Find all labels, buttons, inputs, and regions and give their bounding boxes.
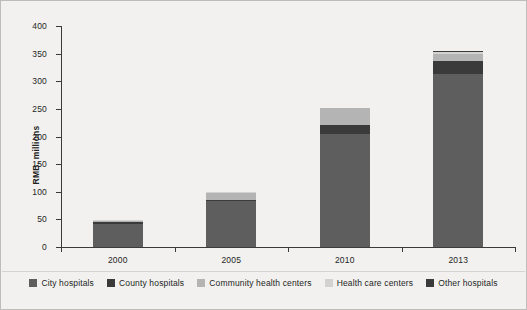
y-tick-mark: [56, 26, 61, 27]
legend-item[interactable]: Health care centers: [325, 278, 414, 288]
legend-label: Health care centers: [337, 278, 414, 288]
plot-area: 050100150200250300350400: [61, 26, 515, 247]
x-tick-mark: [515, 247, 516, 252]
x-tick-mark: [61, 247, 62, 252]
y-tick-mark: [56, 219, 61, 220]
y-tick-label: 150: [32, 159, 47, 169]
legend-item[interactable]: Community health centers: [197, 278, 311, 288]
legend-item[interactable]: Other hospitals: [426, 278, 497, 288]
y-tick-mark: [56, 54, 61, 55]
y-tick-label: 0: [42, 242, 47, 252]
legend-swatch-icon: [107, 279, 115, 287]
y-tick-label: 350: [32, 49, 47, 59]
x-tick-label: 2000: [108, 255, 128, 265]
legend-item[interactable]: City hospitals: [29, 278, 94, 288]
bar-segment[interactable]: [433, 74, 483, 247]
y-tick-mark: [56, 164, 61, 165]
legend-item[interactable]: County hospitals: [107, 278, 184, 288]
x-tick-label: 2013: [448, 255, 468, 265]
y-tick-label: 250: [32, 104, 47, 114]
y-tick-label: 50: [37, 214, 47, 224]
y-tick-mark: [56, 81, 61, 82]
x-tick-mark: [288, 247, 289, 252]
x-tick-mark: [402, 247, 403, 252]
legend-swatch-icon: [325, 279, 333, 287]
bar-segment[interactable]: [206, 201, 256, 247]
y-tick-mark: [56, 137, 61, 138]
bar-segment[interactable]: [320, 108, 370, 125]
bar-stack[interactable]: [320, 108, 370, 247]
y-tick-label: 100: [32, 187, 47, 197]
y-tick-label: 300: [32, 76, 47, 86]
legend-label: City hospitals: [41, 278, 94, 288]
x-tick-label: 2010: [335, 255, 355, 265]
y-tick-mark: [56, 192, 61, 193]
bar-segment[interactable]: [206, 193, 256, 200]
legend-swatch-icon: [29, 279, 37, 287]
bar-stack[interactable]: [206, 192, 256, 247]
bar-segment[interactable]: [320, 125, 370, 134]
bar-stack[interactable]: [93, 220, 143, 247]
y-tick-label: 400: [32, 21, 47, 31]
bar-segment[interactable]: [320, 134, 370, 247]
legend-swatch-icon: [426, 279, 434, 287]
legend-swatch-icon: [197, 279, 205, 287]
legend-label: Community health centers: [209, 278, 311, 288]
chart-frame: RMB, millions 050100150200250300350400 2…: [0, 0, 527, 310]
y-tick-mark: [56, 109, 61, 110]
legend-divider: [2, 271, 525, 272]
y-tick-label: 200: [32, 132, 47, 142]
x-tick-label: 2005: [221, 255, 241, 265]
bar-segment[interactable]: [93, 224, 143, 247]
x-tick-mark: [175, 247, 176, 252]
legend-label: Other hospitals: [438, 278, 497, 288]
bar-segment[interactable]: [433, 54, 483, 61]
legend-label: County hospitals: [119, 278, 184, 288]
chart-legend: City hospitalsCounty hospitalsCommunity …: [1, 278, 526, 288]
bar-segment[interactable]: [433, 61, 483, 74]
bar-stack[interactable]: [433, 51, 483, 247]
